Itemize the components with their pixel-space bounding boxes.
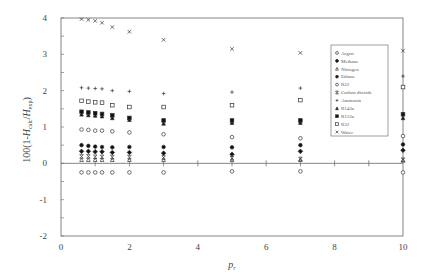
y-axis: -2-101234: [40, 13, 65, 241]
legend-label: R22: [341, 82, 350, 87]
x-tick-label: 10: [399, 242, 409, 252]
series-argon: [80, 170, 405, 175]
x-tick-label: 0: [59, 242, 64, 252]
legend-label: R143a: [341, 106, 355, 111]
legend-label: Ammonia: [341, 98, 362, 103]
y-tick-label: -1: [40, 195, 48, 205]
legend-label: Methane: [341, 59, 359, 64]
y-tick-label: 4: [43, 13, 48, 23]
x-axis-title: pr: [227, 259, 236, 271]
y-tick-label: 2: [43, 86, 48, 96]
x-axis: 0246810: [59, 242, 408, 252]
legend: ArgonMethaneNitrogenEthaneR22Carbon diox…: [331, 45, 388, 136]
y-tick-label: 0: [43, 158, 48, 168]
legend-label: R152a: [341, 114, 355, 119]
scatter-chart: -2-101234 0246810 ArgonMethaneNitrogenEt…: [0, 0, 429, 280]
legend-label: R32: [341, 122, 350, 127]
x-tick-label: 6: [264, 242, 269, 252]
y-tick-label: 3: [43, 49, 48, 59]
legend-label: Carbon dioxide: [341, 90, 373, 95]
series-ethane: [80, 143, 405, 150]
x-tick-label: 4: [196, 242, 201, 252]
legend-label: Water: [341, 130, 353, 135]
y-tick-label: 1: [43, 122, 48, 132]
y-tick-label: -2: [40, 231, 48, 241]
legend-label: Nitrogen: [341, 67, 359, 72]
y-axis-title: 100(1-Hcalc/Hexp): [21, 97, 33, 163]
legend-label: Argon: [341, 51, 354, 56]
legend-label: Ethane: [341, 74, 356, 79]
legend-item: Carbon dioxide: [336, 90, 373, 95]
x-tick-label: 8: [332, 242, 337, 252]
x-tick-label: 2: [127, 242, 132, 252]
